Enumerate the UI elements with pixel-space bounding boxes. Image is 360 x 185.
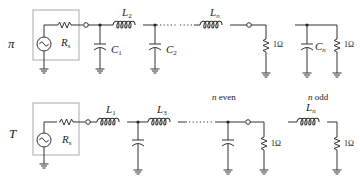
l2-label: L2 (121, 6, 132, 20)
inductor-l3 (148, 118, 170, 125)
ground-icon (224, 170, 233, 174)
t-network: T Rs L1 L3 n even (9, 92, 354, 174)
load-resistor-label: 1Ω (344, 139, 354, 148)
source-resistor (59, 119, 74, 125)
inductor-ln-t (297, 118, 319, 125)
ac-source-icon (37, 133, 51, 147)
load-resistor (334, 38, 340, 53)
c2-label: C2 (166, 43, 177, 57)
ln-t-label: Ln (305, 101, 316, 115)
t-row-label: T (9, 126, 17, 141)
load-resistor (263, 38, 269, 53)
input-terminal (84, 23, 89, 28)
load-resistor-label: 1Ω (273, 40, 283, 49)
output-terminal (246, 120, 251, 125)
ln-label: Ln (209, 6, 220, 20)
source-box-t (33, 103, 79, 155)
l1-label: L1 (105, 103, 116, 117)
input-terminal (86, 120, 91, 125)
c1-label: C1 (111, 43, 122, 57)
ground-icon (303, 73, 312, 77)
ground-icon (260, 170, 269, 174)
ground-icon (40, 164, 49, 168)
rs-label: Rs (60, 36, 71, 50)
load-resistor-label: 1Ω (271, 139, 281, 148)
output-terminal (247, 23, 252, 28)
load-resistor (334, 136, 340, 151)
rs-label: Rs (61, 133, 72, 147)
filter-diagram: π Rs C1 L2 C2 (0, 0, 360, 185)
ground-icon (333, 170, 342, 174)
pi-network: π Rs C1 L2 C2 (8, 6, 354, 77)
ground-icon (40, 69, 49, 73)
pi-row-label: π (8, 36, 15, 51)
cn-label: Cn (315, 40, 326, 54)
load-resistor (261, 136, 267, 151)
t-alt-termination: n odd Ln 1Ω (288, 92, 354, 174)
load-resistor-label: 1Ω (344, 40, 354, 49)
ac-source-icon (37, 37, 51, 51)
n-even-note: n even (212, 92, 236, 102)
source-resistor (57, 22, 72, 28)
ground-icon (333, 73, 342, 77)
ground-icon (151, 69, 160, 73)
source-box-pi (33, 10, 79, 60)
pi-alt-termination: Cn 1Ω (295, 23, 354, 77)
ground-icon (262, 73, 271, 77)
inductor-l1 (97, 118, 119, 125)
inductor-l2 (113, 21, 135, 28)
ground-icon (96, 69, 105, 73)
ground-icon (134, 170, 143, 174)
inductor-ln (200, 21, 222, 28)
l3-label: L3 (156, 103, 167, 117)
